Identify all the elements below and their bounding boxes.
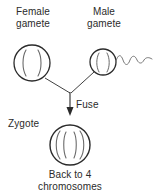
zygote-chromosome-3: [74, 132, 76, 158]
female-to-fusion-line: [45, 78, 70, 93]
male-to-fusion-line: [71, 72, 94, 93]
male-chromosome-1: [97, 53, 99, 72]
label-female-gamete: Female gamete: [9, 6, 57, 30]
label-female-gamete-line2: gamete: [9, 18, 57, 30]
label-male-gamete-line2: gamete: [83, 18, 125, 30]
female-gamete-cell: [14, 45, 50, 81]
label-zygote: Zygote: [8, 118, 39, 130]
female-chromosome-2: [38, 50, 41, 76]
zygote-chromosome-1: [56, 131, 60, 159]
label-female-gamete-line1: Female: [9, 6, 57, 18]
caption-back-to-4-chromosomes: Back to 4 chromosomes: [22, 169, 118, 193]
female-gamete-membrane: [14, 45, 50, 81]
caption-line1: Back to 4: [22, 169, 118, 181]
fusion-to-zygote-arrowhead-icon: [67, 107, 74, 116]
male-gamete-flagellum-icon: [116, 56, 152, 65]
zygote-chromosome-2: [64, 132, 66, 158]
zygote-cell: [50, 125, 90, 165]
label-male-gamete-line1: Male: [83, 6, 125, 18]
diagram-canvas: Female gamete Male gamete Fuse Zygote Ba…: [0, 0, 155, 195]
zygote-chromosome-4: [80, 131, 84, 159]
label-fuse: Fuse: [76, 99, 99, 111]
male-gamete-cell: [90, 49, 152, 75]
female-chromosome-1: [23, 50, 26, 76]
male-chromosome-2: [107, 53, 109, 72]
label-male-gamete: Male gamete: [83, 6, 125, 30]
caption-line2: chromosomes: [22, 181, 118, 193]
male-gamete-membrane: [90, 49, 116, 75]
